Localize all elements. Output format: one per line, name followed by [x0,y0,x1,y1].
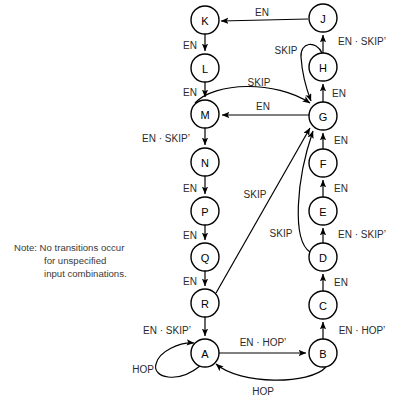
edge-label-G-H: EN [332,88,346,99]
state-node-D[interactable]: D [309,243,337,271]
diagram-note-line-3: input combinations. [14,267,174,280]
edge-label-B-C: EN · HOP’ [339,325,386,336]
state-node-Q[interactable]: Q [191,243,219,271]
state-label-J: J [320,13,326,25]
state-label-A: A [201,348,209,360]
state-node-J[interactable]: J [309,4,337,32]
edge-label-D-E: EN · SKIP’ [338,229,386,240]
edge-label-A-A: HOP [132,364,154,375]
state-node-L[interactable]: L [191,54,219,82]
state-node-R[interactable]: R [191,289,219,317]
edge-M-G [195,86,310,103]
diagram-note: Note: No transitions occur for unspecifi… [14,241,174,280]
edge-label-A-B: EN · HOP’ [240,337,287,348]
state-node-N[interactable]: N [191,148,219,176]
state-label-E: E [319,206,326,218]
state-node-P[interactable]: P [191,197,219,225]
edge-label-layer: EN EN EN EN · SKIP’ SKIP EN SKIP EN EN ·… [132,7,386,397]
edge-label-C-D: EN [334,277,348,288]
edge-label-D-G: SKIP [270,228,293,239]
state-node-G[interactable]: G [309,102,337,130]
state-transition-diagram: EN EN EN EN · SKIP’ SKIP EN SKIP EN EN ·… [0,0,400,408]
edge-label-M-G: SKIP [248,77,271,88]
edge-D-G [298,131,313,252]
state-node-A[interactable]: A [191,339,219,367]
state-label-C: C [319,300,327,312]
state-label-B: B [319,348,326,360]
diagram-note-line-2: for unspecified [14,254,174,267]
edge-label-J-K: EN [255,7,269,18]
edge-label-Q-R: EN [183,276,197,287]
state-node-E[interactable]: E [309,197,337,225]
state-label-N: N [201,157,209,169]
edge-B-A [216,364,326,380]
state-node-F[interactable]: F [309,149,337,177]
state-diagram-figure: EN EN EN EN · SKIP’ SKIP EN SKIP EN EN ·… [0,0,400,408]
edge-label-H-G: SKIP [275,45,298,56]
edge-label-R-G: SKIP [244,189,267,200]
state-label-G: G [319,111,328,123]
edge-label-M-N: EN · SKIP’ [142,133,190,144]
state-label-P: P [201,206,208,218]
edge-label-G-M: EN [256,101,270,112]
state-node-B[interactable]: B [309,339,337,367]
diagram-note-line-1: Note: No transitions occur [14,241,174,254]
edge-R-G [216,128,310,293]
state-label-R: R [201,298,209,310]
edge-label-R-A: EN · SKIP’ [143,325,191,336]
edge-label-P-Q: EN [183,230,197,241]
state-label-D: D [319,252,327,264]
state-node-K[interactable]: K [191,6,219,34]
state-label-Q: Q [201,252,210,264]
edge-label-F-G: EN [334,135,348,146]
state-node-M[interactable]: M [191,100,219,128]
state-label-K: K [201,15,209,27]
state-node-C[interactable]: C [309,291,337,319]
edge-label-E-F: EN [334,183,348,194]
edge-J-K [221,19,308,21]
edge-label-B-A: HOP [252,386,274,397]
edge-label-H-J: EN · SKIP’ [338,36,386,47]
node-layer: K J H L M G N [191,4,337,367]
edge-label-K-L: EN [183,40,197,51]
edge-label-L-M: EN [183,87,197,98]
state-label-L: L [202,63,208,75]
state-label-F: F [320,158,327,170]
state-label-M: M [200,109,209,121]
edge-label-N-P: EN [183,183,197,194]
state-label-H: H [319,62,327,74]
state-node-H[interactable]: H [309,53,337,81]
